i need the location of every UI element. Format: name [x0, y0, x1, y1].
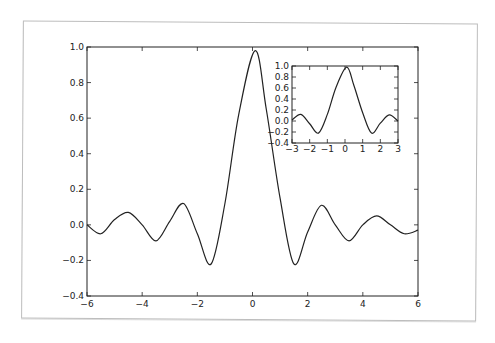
inset-ytick-label: 0.4 — [275, 94, 290, 104]
inset-xtick-label: 0 — [342, 144, 348, 154]
main-ytick-label: −0.2 — [62, 255, 84, 265]
main-xtick-label: 4 — [360, 299, 366, 309]
main-xtick-label: 0 — [250, 299, 256, 309]
inset-xtick-label: 3 — [395, 144, 401, 154]
inset-xtick-label: 1 — [360, 144, 366, 154]
inset-ytick-label: 1.0 — [275, 61, 290, 71]
inset-axes-frame — [292, 66, 398, 143]
main-ytick-label: 0.8 — [70, 78, 85, 88]
inset-ytick-label: −0.4 — [267, 138, 289, 148]
inset-ytick-label: −0.2 — [267, 127, 289, 137]
main-ytick-label: 0.0 — [70, 220, 85, 230]
main-xtick-label: 2 — [305, 299, 311, 309]
inset-xtick-label: 2 — [377, 144, 383, 154]
main-ytick-label: 0.6 — [70, 113, 85, 123]
main-xtick-label: −2 — [191, 299, 204, 309]
main-ytick-label: 0.2 — [70, 184, 84, 194]
inset-ytick-label: 0.8 — [275, 72, 290, 82]
main-ytick-label: 0.4 — [70, 149, 85, 159]
inset-ytick-label: 0.2 — [275, 105, 289, 115]
inset-xtick-label: −2 — [303, 144, 316, 154]
inset-ytick-label: 0.6 — [275, 83, 290, 93]
main-xtick-label: −4 — [136, 299, 150, 309]
main-xtick-label: 6 — [415, 299, 421, 309]
inset-xtick-label: −1 — [321, 144, 334, 154]
inset-ytick-label: 0.0 — [275, 116, 290, 126]
chart-svg: −6−4−20246−0.4−0.20.00.20.40.60.81.0−3−2… — [0, 0, 495, 343]
main-ytick-label: −0.4 — [62, 291, 84, 301]
main-ytick-label: 1.0 — [70, 42, 85, 52]
